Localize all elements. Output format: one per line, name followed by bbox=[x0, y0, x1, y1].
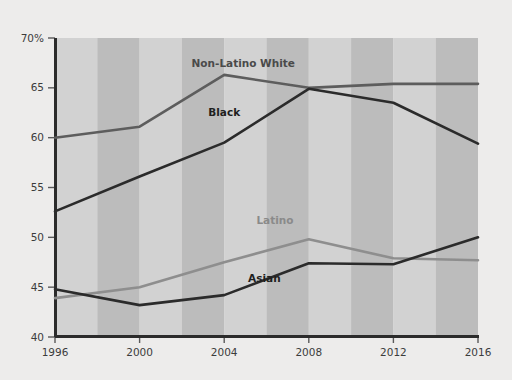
y-tick-label: 55 bbox=[31, 181, 44, 193]
line-chart: 70%656055504540 199620002004200820122016… bbox=[0, 0, 512, 380]
y-tick-label: 50 bbox=[31, 231, 44, 243]
y-tick-label: 60 bbox=[31, 131, 44, 143]
series-label-non-latino-white: Non-Latino White bbox=[192, 57, 295, 69]
x-tick-label: 1996 bbox=[42, 346, 69, 358]
y-tick-label: 40 bbox=[31, 331, 44, 343]
x-tick-label: 2016 bbox=[465, 346, 492, 358]
series-label-latino: Latino bbox=[256, 214, 293, 226]
plot-band bbox=[182, 38, 224, 337]
plot-band bbox=[309, 38, 351, 337]
series-label-black: Black bbox=[208, 106, 241, 118]
y-tick-label: 65 bbox=[31, 81, 44, 93]
y-tick-label: 45 bbox=[31, 281, 44, 293]
x-tick-label: 2008 bbox=[295, 346, 322, 358]
x-tick-label: 2012 bbox=[380, 346, 407, 358]
x-tick-label: 2000 bbox=[126, 346, 153, 358]
x-tick-label: 2004 bbox=[211, 346, 238, 358]
y-tick-label: 70% bbox=[21, 32, 44, 44]
series-label-asian: Asian bbox=[248, 272, 281, 284]
chart-container: 70%656055504540 199620002004200820122016… bbox=[0, 0, 512, 380]
plot-band bbox=[140, 38, 182, 337]
